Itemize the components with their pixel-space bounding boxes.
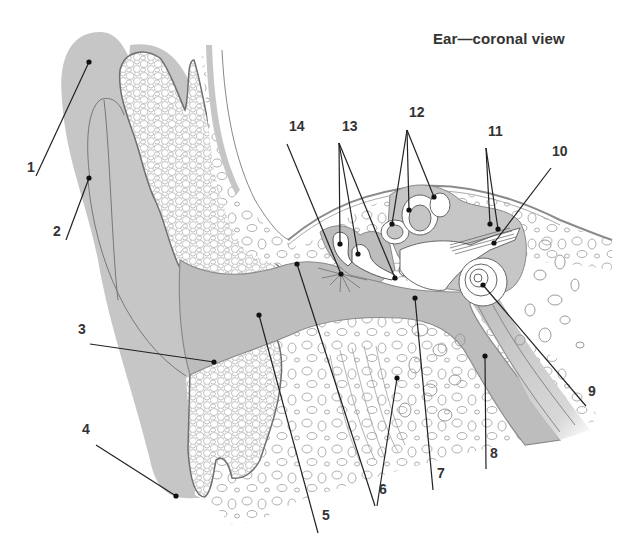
callout-label-6: 6 [379, 482, 387, 496]
callout-label-5: 5 [322, 508, 330, 522]
leader-dot-14 [338, 271, 343, 276]
leader-dot-6a [294, 261, 299, 266]
callout-label-14: 14 [289, 119, 305, 133]
callout-label-9: 9 [588, 384, 596, 398]
callout-label-4: 4 [82, 422, 90, 436]
callout-label-11: 11 [488, 124, 503, 138]
leader-dot-6b [394, 375, 399, 380]
callout-label-2: 2 [53, 224, 61, 238]
leader-dot-7 [412, 295, 417, 300]
cochlea [459, 258, 507, 306]
leader-dot-12c [431, 194, 436, 199]
leader-dot-1 [86, 59, 91, 64]
diagram-title: Ear—coronal view [433, 30, 565, 47]
leader-dot-8 [482, 353, 487, 358]
leader-dot-3 [211, 359, 216, 364]
leader-dot-11b [495, 226, 500, 231]
callout-label-13: 13 [342, 119, 358, 133]
leader-dot-12a [389, 221, 394, 226]
callout-label-7: 7 [437, 466, 445, 480]
leader-dot-5 [256, 312, 261, 317]
leader-dot-9 [480, 282, 485, 287]
leader-dot-13c [392, 275, 397, 280]
callout-label-1: 1 [27, 160, 35, 174]
leader-dot-13a [337, 241, 342, 246]
callout-label-10: 10 [552, 144, 568, 158]
leader-dot-13b [355, 251, 360, 256]
ear-coronal-diagram [0, 0, 623, 554]
leader-dot-11a [487, 221, 492, 226]
leader-dot-4 [173, 493, 178, 498]
leader-dot-10 [491, 240, 496, 245]
leader-dot-2 [86, 175, 91, 180]
callout-label-3: 3 [78, 322, 86, 336]
callout-label-8: 8 [490, 446, 498, 460]
leader-dot-12b [406, 207, 411, 212]
callout-label-12: 12 [409, 105, 425, 119]
